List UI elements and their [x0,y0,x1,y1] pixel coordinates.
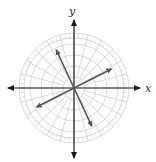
polar-diagram: y x [0,0,156,162]
y-axis-label: y [68,5,76,18]
x-axis-label: x [145,82,152,95]
